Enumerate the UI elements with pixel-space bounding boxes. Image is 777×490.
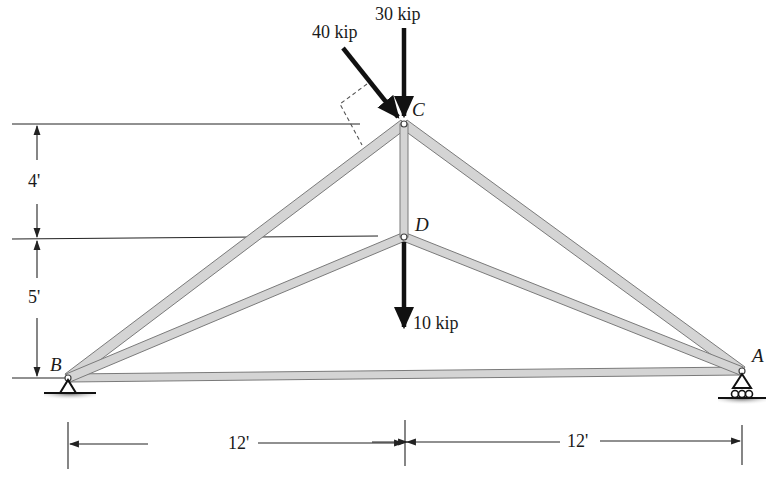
roller-support-A [718, 374, 766, 408]
joint-D [401, 234, 407, 240]
member-CA [401, 120, 745, 375]
node-label-D: D [415, 215, 429, 234]
dim-label-5ft: 5' [28, 288, 40, 306]
reference-lines [12, 124, 378, 378]
member-BC [65, 120, 407, 382]
member-BA [68, 367, 742, 382]
member-CD [400, 124, 408, 237]
arrow-40kip [343, 48, 398, 117]
horizontal-dimension [68, 420, 742, 469]
dim-label-12ft-right: 12' [567, 432, 588, 450]
load-label-40kip: 40 kip [312, 23, 358, 41]
node-label-A: A [752, 346, 764, 365]
load-label-10kip: 10 kip [413, 314, 459, 332]
joint-C [401, 121, 407, 127]
perpendicular-indicator [340, 84, 367, 145]
ref-line-d-level [12, 236, 378, 239]
dim-label-4ft: 4' [28, 172, 40, 190]
load-arrows [343, 28, 404, 327]
node-label-B: B [50, 355, 62, 374]
pin-support-B [44, 380, 96, 403]
truss-diagram [0, 0, 777, 490]
load-label-30kip: 30 kip [375, 5, 421, 23]
dim-label-12ft-left: 12' [228, 434, 249, 452]
node-label-C: C [412, 100, 425, 119]
